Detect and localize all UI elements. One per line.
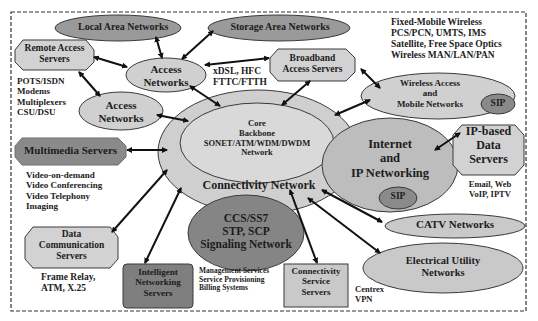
lan-label: Local Area Networks (78, 21, 158, 33)
wireless-annotation: Fixed-Mobile Wireless PCS/PCN, UMTS, IMS… (391, 17, 502, 61)
conn-service-annotation: Centrex VPN (355, 285, 384, 305)
electrical-label: Electrical Utility Networks (380, 255, 506, 279)
access-networks-2-label: Access Networks (82, 99, 160, 124)
wireless-label: Wireless Access and Mobile Networks (370, 78, 490, 109)
access-networks-1-label: Access Networks (128, 63, 204, 88)
remote-access-label: Remote Access Servers (15, 43, 94, 65)
data-comm-annotation: Frame Relay, ATM, X.25 (41, 272, 95, 294)
wireless-sip-label: SIP (484, 98, 512, 109)
catv-label: CATV Networks (390, 218, 520, 231)
internet-label: Internet and IP Networking (330, 137, 450, 180)
ip-data-label: IP-based Data Servers (453, 125, 524, 166)
remote-access-annotation: POTS/ISDN Modems Multiplexers CSU/DSU (17, 76, 66, 117)
xdsl-annotation: xDSL, HFC FTTC/FTTH (213, 66, 267, 88)
signaling-label: CCS/SS7 STP, SCP Signaling Network (186, 212, 306, 252)
intelligent-annotation: Management Services Service Provisioning… (199, 267, 269, 293)
connectivity-label: Connectivity Network (192, 179, 326, 193)
multimedia-annotation: Video-on-demand Video Conferencing Video… (26, 170, 102, 211)
intelligent-label: Intelligent Networking Servers (123, 267, 193, 298)
broadband-label: Broadband Access Servers (270, 53, 355, 75)
internet-sip-label: SIP (384, 191, 412, 202)
san-label: Storage Area Networks (222, 21, 338, 33)
conn-service-label: Connectivity Service Servers (284, 266, 348, 297)
multimedia-label: Multimedia Servers (15, 144, 126, 157)
core-label: Core Backbone SONET/ATM/WDM/DWDM Network (196, 119, 318, 158)
data-comm-label: Data Communication Servers (25, 229, 118, 262)
ip-data-annotation: Email, Web VoIP, IPTV (455, 180, 525, 200)
